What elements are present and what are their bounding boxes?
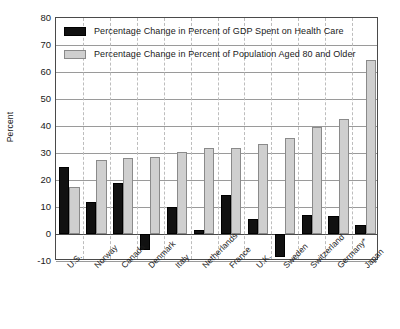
bar xyxy=(328,216,338,234)
bar xyxy=(258,144,268,234)
y-tick-label: 70 xyxy=(11,39,51,50)
y-tick-label: 0 xyxy=(11,228,51,239)
bar xyxy=(231,148,241,234)
legend-item-population-80-plus: Percentage Change in Percent of Populati… xyxy=(64,44,356,64)
bar xyxy=(86,202,96,234)
legend-item-health-care: Percentage Change in Percent of GDP Spen… xyxy=(64,21,356,41)
bar xyxy=(339,119,349,234)
y-tick-label: 80 xyxy=(11,12,51,23)
bar-chart: Percent 80706050403020100-10 U.S.NorwayC… xyxy=(0,0,400,329)
legend-label-health-care: Percentage Change in Percent of GDP Spen… xyxy=(94,26,344,36)
legend: Percentage Change in Percent of GDP Spen… xyxy=(64,21,356,67)
bar xyxy=(69,187,79,234)
y-tick-label: 50 xyxy=(11,93,51,104)
bar xyxy=(150,157,160,234)
y-tick-label: 10 xyxy=(11,201,51,212)
bar xyxy=(123,158,133,234)
bar xyxy=(59,167,69,235)
bar xyxy=(312,127,322,234)
bar xyxy=(285,138,295,234)
legend-swatch-black xyxy=(64,27,86,36)
bar xyxy=(302,215,312,234)
bar xyxy=(177,152,187,234)
bar xyxy=(355,225,365,234)
bar xyxy=(194,230,204,234)
bar xyxy=(275,234,285,257)
bar xyxy=(366,60,376,234)
legend-swatch-gray xyxy=(64,50,86,59)
legend-label-population-80-plus: Percentage Change in Percent of Populati… xyxy=(94,49,356,59)
bar xyxy=(96,160,106,234)
y-tick-label: 40 xyxy=(11,120,51,131)
bar xyxy=(221,195,231,234)
y-tick-label: -10 xyxy=(11,255,51,266)
bar xyxy=(167,207,177,234)
bar xyxy=(248,219,258,234)
y-tick-label: 60 xyxy=(11,66,51,77)
bar xyxy=(113,183,123,234)
y-tick-label: 30 xyxy=(11,147,51,158)
bar xyxy=(204,148,214,234)
y-tick-label: 20 xyxy=(11,174,51,185)
